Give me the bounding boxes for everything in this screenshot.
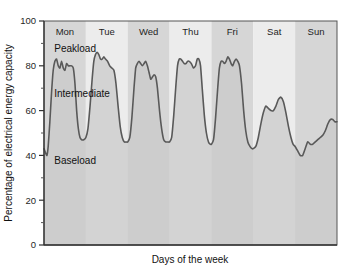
y-tick-label: 0 [31, 239, 36, 250]
y-tick-label: 60 [25, 105, 36, 116]
y-tick-label: 80 [25, 60, 36, 71]
zone-label-peakload: Peakload [54, 43, 96, 54]
day-label-thu: Thu [182, 26, 198, 37]
day-label-mon: Mon [56, 26, 74, 37]
y-tick-label: 20 [25, 195, 36, 206]
y-tick-label: 40 [25, 150, 36, 161]
x-axis-title: Days of the week [152, 254, 230, 265]
day-label-sun: Sun [308, 26, 325, 37]
day-label-wed: Wed [139, 26, 158, 37]
day-label-tue: Tue [99, 26, 115, 37]
zone-label-intermediate: Intermediate [54, 88, 110, 99]
y-tick-label: 100 [20, 15, 36, 26]
day-label-fri: Fri [227, 26, 238, 37]
chart-figure: 020406080100 MonTueWedThuFriSatSun Peakl… [0, 0, 352, 272]
y-axis-title: Percentage of electrical energy capacity [3, 44, 14, 221]
day-label-sat: Sat [267, 26, 282, 37]
energy-capacity-chart: 020406080100 MonTueWedThuFriSatSun Peakl… [0, 0, 352, 272]
zone-label-baseload: Baseload [54, 155, 96, 166]
